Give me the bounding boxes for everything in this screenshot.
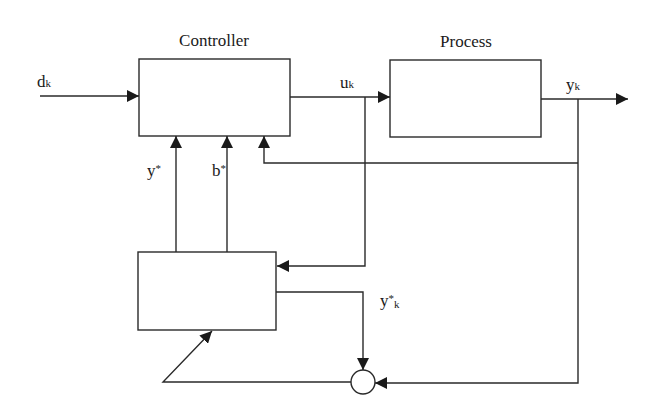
estimator-block xyxy=(138,252,276,330)
yk-label: yk xyxy=(566,75,581,94)
yk-feedback-arrow xyxy=(264,136,578,163)
ystark-label: y*k xyxy=(380,291,400,310)
uk-label: uk xyxy=(340,73,355,92)
block-diagram: Controller Process dk uk yk y* b* y*k xyxy=(0,0,662,416)
yk-to-sum-arrow xyxy=(375,99,578,383)
controller-block xyxy=(139,59,290,136)
process-label: Process xyxy=(440,32,492,51)
summing-junction xyxy=(351,370,375,394)
process-block xyxy=(390,60,541,137)
controller-label: Controller xyxy=(179,31,249,50)
error-feedback-arrow xyxy=(163,331,351,382)
bstar-label: b* xyxy=(212,161,226,180)
ystar-label: y* xyxy=(147,161,161,180)
dk-label: dk xyxy=(37,72,52,91)
ystark-arrow xyxy=(276,292,363,370)
